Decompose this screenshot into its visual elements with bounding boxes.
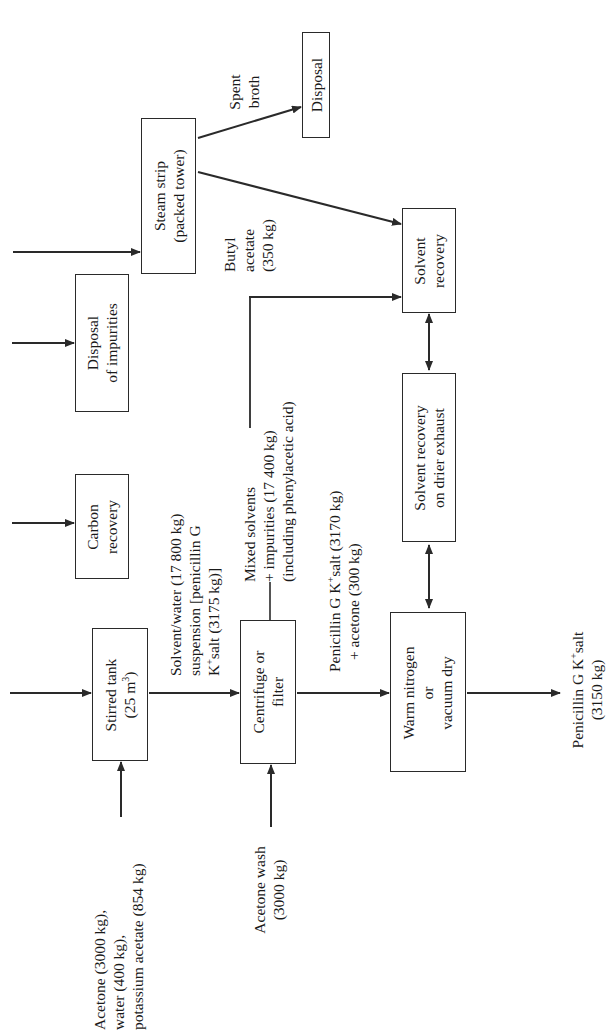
- dryer-box: Warm nitrogen or vacuum dry: [390, 612, 466, 772]
- mixed-solvents-label: Mixed solvents + impurities (17 400 kg) …: [240, 401, 297, 582]
- disposal-impurities-box: Disposal of impurities: [75, 274, 129, 412]
- drier-exhaust-recovery-label: Solvent recovery on drier exhaust: [410, 392, 448, 524]
- solvent-recovery-label: Solvent recovery: [410, 221, 448, 301]
- product-label: Penicillin G K+salt (3150 kg): [568, 610, 606, 770]
- carbon-recovery-label: Carbon recovery: [83, 489, 121, 565]
- dryer-label: Warm nitrogen or vacuum dry: [399, 625, 456, 761]
- drier-exhaust-recovery-box: Solvent recovery on drier exhaust: [402, 373, 456, 542]
- solvent-recovery-box: Solvent recovery: [402, 208, 456, 313]
- centrifuge-label: Centrifuge or filter: [249, 633, 287, 751]
- disposal-label: Disposal: [307, 45, 326, 125]
- suspension-label: Solvent/water (17 800 kg) suspension [pe…: [166, 514, 223, 676]
- centrifuge-output-label: Penicillin G K+salt (3170 kg) + acetone …: [325, 491, 363, 672]
- acetone-wash-label: Acetone wash (3000 kg): [250, 835, 288, 945]
- steam-strip-box: Steam strip (packed tower): [141, 118, 196, 274]
- spent-broth-label: Spent broth: [225, 68, 263, 116]
- stirred-tank-label: Stirred tank (25 m3): [101, 641, 139, 749]
- steam-strip-label: Steam strip (packed tower): [150, 133, 188, 259]
- centrifuge-box: Centrifuge or filter: [240, 620, 296, 764]
- butyl-acetate-label: Butyl acetate (350 kg): [220, 219, 277, 272]
- feed-label: Acetone (3000 kg), water (400 kg), potas…: [90, 863, 147, 1030]
- disposal-impurities-label: Disposal of impurities: [83, 289, 121, 397]
- stirred-tank-box: Stirred tank (25 m3): [92, 628, 148, 761]
- carbon-recovery-box: Carbon recovery: [75, 474, 129, 579]
- disposal-box: Disposal: [302, 32, 330, 138]
